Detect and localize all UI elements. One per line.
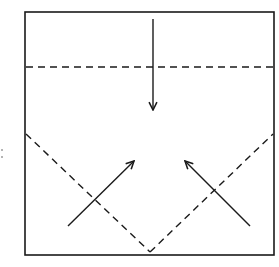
margin-mark <box>1 156 3 158</box>
paper-square <box>25 12 274 255</box>
origami-diagram <box>0 0 279 267</box>
left-diagonal-fold-line <box>26 134 150 252</box>
right-diagonal-fold-line <box>150 134 273 252</box>
fold-up-left-arrow-icon <box>68 161 134 226</box>
fold-up-right-arrow-icon <box>185 161 250 226</box>
margin-mark <box>1 149 3 151</box>
